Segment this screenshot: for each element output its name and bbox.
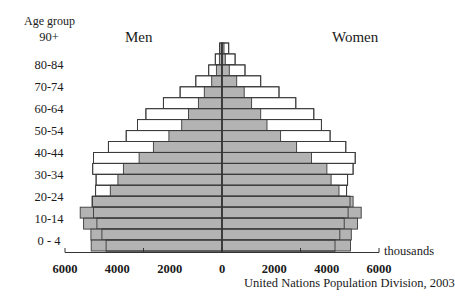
women-shaded-bar xyxy=(222,207,361,218)
women-shaded-bar xyxy=(222,240,351,251)
women-title: Women xyxy=(332,29,378,46)
men-shaded-bar xyxy=(80,207,222,218)
y-axis-title: Age group xyxy=(24,14,75,29)
men-shaded-bar xyxy=(91,229,222,240)
age-group-label: 0 - 4 xyxy=(38,233,61,248)
women-shaded-bar xyxy=(222,229,351,240)
men-shaded-bar xyxy=(118,174,222,185)
men-shaded-bar xyxy=(212,76,222,87)
women-shaded-bar xyxy=(222,87,244,98)
women-shaded-bar xyxy=(222,109,261,120)
x-tick-label: 4000 xyxy=(105,262,130,277)
age-group-label: 80-84 xyxy=(34,58,63,73)
men-shaded-bar xyxy=(92,196,222,207)
men-shaded-bar xyxy=(182,120,222,131)
men-shaded-bar xyxy=(84,218,222,229)
age-group-label: 20-24 xyxy=(34,189,63,204)
men-shaded-bar xyxy=(110,185,222,196)
women-shaded-bar xyxy=(222,163,327,174)
x-tick-label: 6000 xyxy=(53,262,78,277)
women-shaded-bar xyxy=(222,153,312,164)
women-shaded-bar xyxy=(222,120,267,131)
men-shaded-bar xyxy=(123,163,222,174)
age-group-label: 40-44 xyxy=(34,145,63,160)
source-note: United Nations Population Division, 2003 xyxy=(244,276,455,291)
men-shaded-bar xyxy=(153,142,222,153)
men-shaded-bar xyxy=(91,240,222,251)
men-shaded-bar xyxy=(189,109,223,120)
women-shaded-bar xyxy=(222,76,237,87)
pyramid-bars xyxy=(80,43,361,251)
women-shaded-bar xyxy=(222,131,281,142)
women-shaded-bar xyxy=(222,185,339,196)
women-shaded-bar xyxy=(222,196,353,207)
women-shaded-bar xyxy=(222,218,358,229)
age-group-label: 30-34 xyxy=(34,167,63,182)
women-shaded-bar xyxy=(222,142,297,153)
age-group-label: 90+ xyxy=(39,30,59,45)
men-shaded-bar xyxy=(204,87,222,98)
x-tick-label: 6000 xyxy=(367,262,392,277)
age-group-label: 70-74 xyxy=(34,80,63,95)
women-shaded-bar xyxy=(222,174,331,185)
x-tick-label: 0 xyxy=(219,262,225,277)
x-tick-label: 4000 xyxy=(314,262,339,277)
age-group-label: 60-64 xyxy=(34,102,63,117)
women-shaded-bar xyxy=(222,98,252,109)
age-group-label: 10-14 xyxy=(34,211,63,226)
men-shaded-bar xyxy=(198,98,222,109)
age-group-label: 50-54 xyxy=(34,124,63,139)
x-tick-label: 2000 xyxy=(262,262,287,277)
x-tick-label: 2000 xyxy=(157,262,182,277)
men-shaded-bar xyxy=(139,153,222,164)
men-shaded-bar xyxy=(216,65,222,76)
men-title: Men xyxy=(125,29,153,46)
x-axis-units: thousands xyxy=(384,244,434,259)
men-shaded-bar xyxy=(169,131,222,142)
women-shaded-bar xyxy=(222,65,229,76)
